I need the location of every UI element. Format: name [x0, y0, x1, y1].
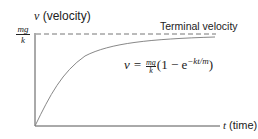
formula-lhs: v = [124, 57, 145, 72]
x-axis-label: t (time) [223, 119, 257, 131]
fraction-denominator: k [16, 36, 30, 44]
formula-denominator: k [146, 67, 156, 74]
formula-close: ) [209, 57, 213, 72]
fraction-numerator: mg [16, 25, 30, 33]
terminal-velocity-label: Terminal velocity [160, 20, 238, 32]
velocity-diagram: v (velocity) mg k Terminal velocity v = … [0, 0, 258, 139]
y-axis-label: v (velocity) [34, 9, 91, 24]
terminal-value-label: mg k [16, 25, 30, 44]
formula-paren: (1 − e [157, 57, 187, 72]
y-axis-text: (velocity) [39, 9, 90, 23]
formula-numerator: mg [146, 59, 156, 66]
formula-exponent: −kt/m [187, 56, 209, 66]
formula-fraction: mgk [146, 59, 156, 74]
x-axis-text: (time) [226, 119, 257, 131]
velocity-formula: v = mgk(1 − e−kt/m) [124, 56, 213, 74]
velocity-curve [35, 37, 215, 126]
